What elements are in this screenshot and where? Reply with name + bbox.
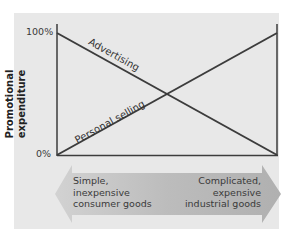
y-tick-0: 0% — [36, 148, 51, 159]
arrow-right-line1: Complicated, — [185, 175, 261, 187]
arrow-left-line2: inexpensive — [73, 187, 152, 199]
arrow-left-label: Simple, inexpensive consumer goods — [73, 175, 152, 210]
arrow-left-line1: Simple, — [73, 175, 152, 187]
arrow-right-label: Complicated, expensive industrial goods — [185, 175, 261, 210]
y-axis-label: Promotional expenditure — [4, 54, 28, 154]
arrow-right-line3: industrial goods — [185, 198, 261, 210]
y-tick-100: 100% — [26, 26, 53, 37]
y-axis-label-line2: expenditure — [16, 54, 28, 154]
arrow-left-line3: consumer goods — [73, 198, 152, 210]
chart-canvas — [0, 0, 299, 249]
arrow-right-line2: expensive — [185, 187, 261, 199]
y-axis-label-line1: Promotional — [4, 54, 16, 154]
